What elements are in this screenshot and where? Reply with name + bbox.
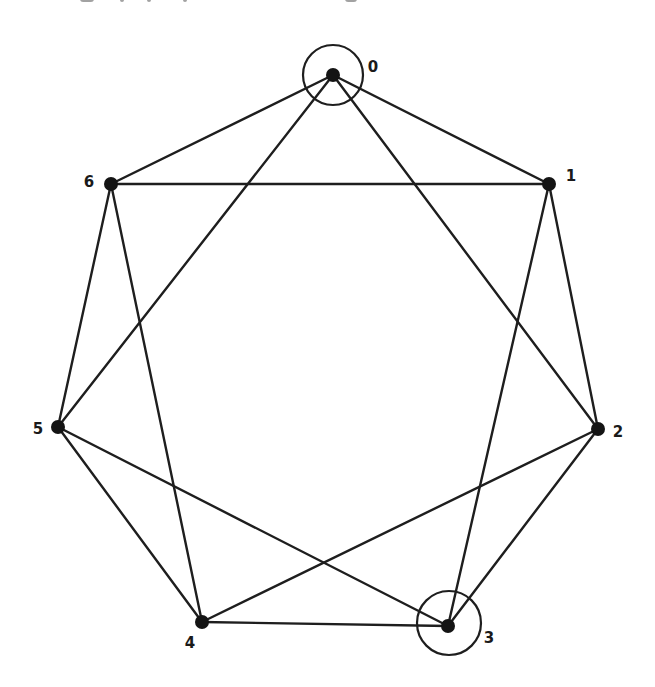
graph-diagram: 0 1 2 3 4 5 6 xyxy=(0,0,655,687)
edge-1-2 xyxy=(549,184,598,429)
vertex-5 xyxy=(51,420,65,434)
vertex-label-0: 0 xyxy=(368,60,378,75)
vertex-1 xyxy=(542,177,556,191)
vertex-0 xyxy=(326,68,340,82)
vertex-3 xyxy=(441,619,455,633)
vertex-label-2: 2 xyxy=(613,425,623,440)
vertex-label-1: 1 xyxy=(566,169,576,184)
vertex-6 xyxy=(104,177,118,191)
edge-4-3 xyxy=(202,622,448,626)
vertex-label-4: 4 xyxy=(185,636,195,651)
graph-canvas xyxy=(0,0,655,687)
edge-5-4 xyxy=(58,427,202,622)
vertex-2 xyxy=(591,422,605,436)
edge-0-6 xyxy=(111,75,333,184)
vertices xyxy=(51,68,605,633)
edge-0-2 xyxy=(333,75,598,429)
edge-0-5 xyxy=(58,75,333,427)
vertex-4 xyxy=(195,615,209,629)
vertex-label-5: 5 xyxy=(33,422,43,437)
edge-2-4 xyxy=(202,429,598,622)
edge-6-4 xyxy=(111,184,202,622)
edges xyxy=(58,75,598,626)
edge-6-5 xyxy=(58,184,111,427)
vertex-label-6: 6 xyxy=(84,175,94,190)
edge-0-1 xyxy=(333,75,549,184)
vertex-label-3: 3 xyxy=(484,631,494,646)
